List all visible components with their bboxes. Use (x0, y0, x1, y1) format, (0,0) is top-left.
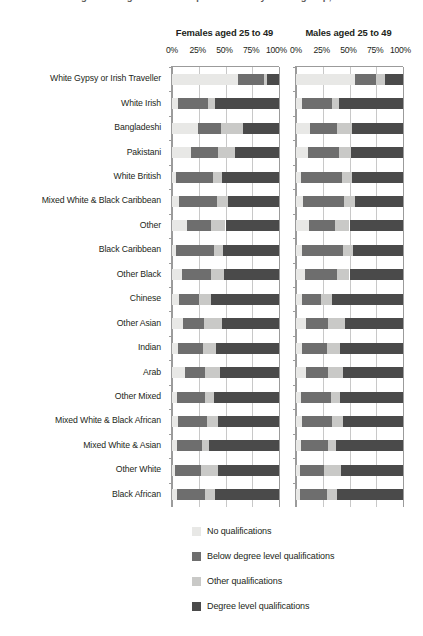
bar-segment (339, 98, 403, 109)
stacked-bar (172, 392, 279, 403)
bar-segment (211, 294, 279, 305)
stacked-bar (172, 245, 279, 256)
stacked-bar (172, 318, 279, 329)
bar-segment (296, 367, 306, 378)
bar-segment (223, 245, 279, 256)
x-axis-ticks-males: 0%25%50%75%100% (295, 45, 402, 57)
x-tick-label: 75% (243, 45, 259, 55)
stacked-bar (296, 172, 403, 183)
bar-segment (353, 245, 403, 256)
stacked-bar (172, 269, 279, 280)
bar-segment (355, 74, 376, 85)
category-tickmark (293, 336, 296, 337)
stacked-bar (296, 147, 403, 158)
category-tickmark (169, 458, 172, 459)
bar-segment (172, 74, 238, 85)
bar-segment (178, 98, 208, 109)
bar-segment (176, 245, 213, 256)
x-tick-label: 100% (266, 45, 287, 55)
bar-segment (337, 123, 352, 134)
bar-segment (222, 318, 279, 329)
category-label: White Gypsy or Irish Traveller (0, 73, 166, 83)
legend-swatch (192, 602, 201, 611)
stacked-bar (172, 465, 279, 476)
bar-segment (296, 196, 303, 207)
bar-segment (296, 318, 306, 329)
bar-segment (328, 367, 343, 378)
bar-segment (177, 440, 202, 451)
x-axis-ticks-females: 0%25%50%75%100% (171, 45, 278, 57)
legend-swatch (192, 527, 201, 536)
category-tickmark (169, 409, 172, 410)
bar-segment (238, 74, 264, 85)
category-label: Other Black (0, 269, 166, 279)
stacked-bar (296, 343, 403, 354)
bar-segment (226, 220, 280, 231)
bar-segment (306, 367, 328, 378)
category-label: Chinese (0, 293, 166, 303)
category-label: Black African (0, 489, 166, 499)
x-tick-label: 75% (367, 45, 383, 55)
bar-segment (176, 172, 212, 183)
bar-segment (308, 147, 339, 158)
bar-segment (224, 269, 279, 280)
category-tickmark (169, 287, 172, 288)
bar-segment (305, 269, 337, 280)
bar-segment (350, 269, 404, 280)
bar-segment (198, 123, 222, 134)
category-label: White British (0, 171, 166, 181)
category-tickmark (169, 483, 172, 484)
bar-segment (321, 294, 333, 305)
category-label: Bangladeshi (0, 122, 166, 132)
bar-segment (332, 416, 343, 427)
bar-segment (328, 318, 345, 329)
category-tickmark (169, 189, 172, 190)
gridline (279, 67, 280, 507)
bar-segment (172, 294, 179, 305)
stacked-bar (172, 98, 279, 109)
bar-segment (243, 123, 279, 134)
bar-segment (345, 318, 403, 329)
category-tickmark (169, 360, 172, 361)
legend-swatch (192, 577, 201, 586)
panel-title-females: Females aged 25 to 49 (171, 27, 278, 38)
category-tickmark (293, 214, 296, 215)
bar-segment (296, 147, 308, 158)
bar-segment (191, 147, 218, 158)
category-label: Other White (0, 464, 166, 474)
category-label: Black Caribbean (0, 244, 166, 254)
category-tickmark (169, 116, 172, 117)
bar-segment (339, 147, 351, 158)
category-tickmark (293, 116, 296, 117)
category-tickmark (293, 434, 296, 435)
legend-label: Degree level qualifications (207, 600, 309, 613)
category-tickmark (169, 263, 172, 264)
bar-segment (220, 367, 279, 378)
category-tickmark (293, 67, 296, 68)
category-tickmark (293, 140, 296, 141)
x-tick-label: 25% (314, 45, 330, 55)
x-tick-label: 0% (290, 45, 302, 55)
bar-segment (296, 220, 309, 231)
bar-segment (296, 123, 310, 134)
stacked-bar (172, 196, 279, 207)
stacked-bar (296, 245, 403, 256)
category-label: Mixed White & Black African (0, 415, 166, 425)
category-tickmark (293, 458, 296, 459)
category-tickmark (169, 214, 172, 215)
bar-segment (216, 343, 279, 354)
x-tick-label: 25% (190, 45, 206, 55)
stacked-bar (296, 392, 403, 403)
category-label: Pakistani (0, 147, 166, 157)
bar-segment (218, 147, 235, 158)
category-tickmark (293, 165, 296, 166)
bar-segment (179, 294, 198, 305)
bar-segment (199, 294, 211, 305)
category-tickmark (293, 238, 296, 239)
category-tickmark (293, 409, 296, 410)
stacked-bar (296, 489, 403, 500)
category-label: Other Asian (0, 318, 166, 328)
category-tickmark (169, 67, 172, 68)
bar-segment (182, 269, 211, 280)
bar-segment (267, 74, 279, 85)
